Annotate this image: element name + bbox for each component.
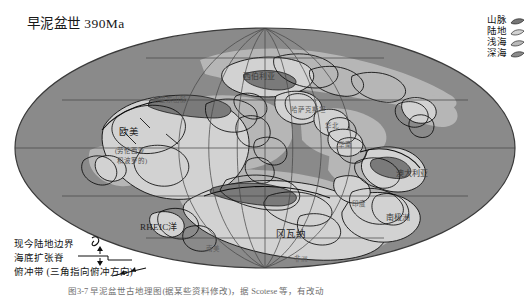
legend-swatch-mountain-icon	[510, 17, 525, 25]
paleogeographic-figure: 早泥盆世 390Ma 山脉 陆地 浅海 深海	[0, 0, 530, 297]
legend-label-deep-sea: 深海	[487, 48, 507, 59]
legend-item-deep-sea: 深海	[487, 48, 525, 59]
map-label-14: 印度	[352, 198, 366, 208]
map-label-7: 华南	[338, 139, 352, 149]
map-label-13: 非洲	[294, 253, 308, 263]
map-legend-bottom-left: 现今陆地边界 海底扩张脊 俯冲带 (三角指向俯冲方向)	[14, 237, 133, 279]
legend-label-spreading-ridge: 海底扩张脊	[14, 251, 64, 265]
legend-swatch-deep-sea-icon	[510, 50, 525, 58]
legend-label-present-land-boundary: 现今陆地边界	[14, 237, 74, 251]
legend-swatch-land-icon	[510, 28, 525, 36]
legend-item-present-land-boundary: 现今陆地边界	[14, 237, 133, 251]
legend-label-land: 陆地	[487, 26, 507, 37]
map-label-1: 加里东山脉	[152, 94, 187, 104]
map-label-6: 华北	[325, 120, 339, 130]
legend-item-shallow-sea: 浅海	[487, 37, 525, 48]
legend-item-subduction-zone: 俯冲带 (三角指向俯冲方向)	[14, 265, 133, 279]
map-label-4: (劳伦西亚	[115, 145, 145, 155]
legend-item-spreading-ridge: 海底扩张脊	[14, 251, 133, 265]
legend-swatch-shallow-sea-icon	[510, 39, 525, 47]
map-label-5: 和波罗的)	[117, 155, 147, 165]
map-label-12: 南美	[206, 243, 220, 253]
map-label-3: 欧美	[119, 124, 139, 138]
map-label-9: 南极洲	[386, 211, 410, 222]
map-label-8: 澳大利亚	[396, 167, 428, 178]
legend-item-mountain: 山脉	[487, 15, 525, 26]
legend-label-subduction-zone: 俯冲带 (三角指向俯冲方向)	[14, 265, 133, 279]
legend-label-shallow-sea: 浅海	[487, 37, 507, 48]
map-label-2: 哈萨克斯坦	[291, 104, 326, 114]
figure-caption: 图3-7 早泥盆世古地理图(据某些资料修改)，据 Scotese 等，有改动	[68, 286, 468, 297]
map-label-0: 西伯利亚	[243, 70, 275, 81]
figure-title: 早泥盆世 390Ma	[27, 12, 125, 32]
map-label-11: 冈瓦纳	[276, 226, 306, 240]
legend-label-mountain: 山脉	[487, 15, 507, 26]
legend-item-land: 陆地	[487, 26, 525, 37]
map-legend-top-right: 山脉 陆地 浅海 深海	[487, 15, 525, 59]
map-label-10: RHEIC洋	[140, 220, 178, 233]
